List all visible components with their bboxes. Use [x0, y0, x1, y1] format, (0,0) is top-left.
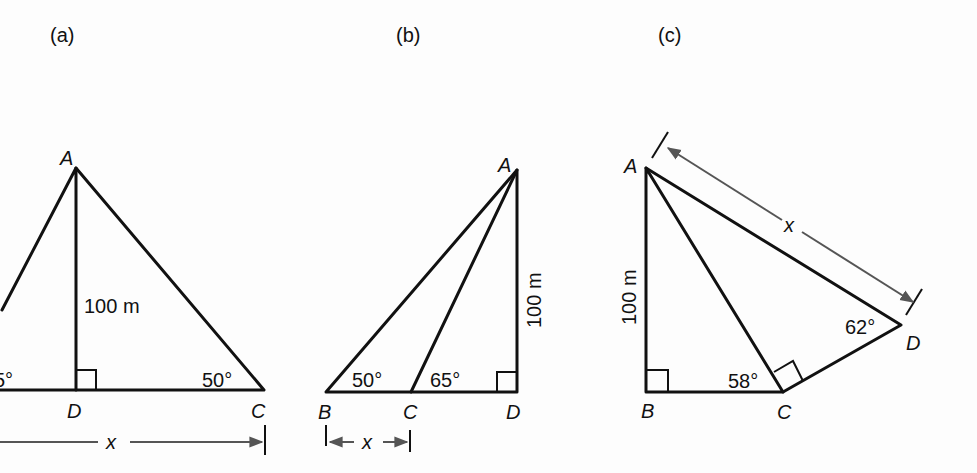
dimension-tick-d	[906, 289, 922, 315]
dimension-x: x	[361, 431, 373, 453]
vertex-c: C	[251, 400, 266, 422]
vertex-c: C	[403, 401, 418, 423]
vertex-c: C	[777, 401, 792, 423]
triangle-abc	[646, 168, 783, 392]
right-angle-marker	[76, 370, 96, 390]
caption-a: (a)	[50, 24, 74, 46]
triangle-acd	[646, 168, 901, 392]
caption-b: (b)	[396, 24, 420, 46]
vertex-b: B	[318, 401, 331, 423]
vertex-a: A	[623, 155, 637, 177]
vertex-a: A	[497, 154, 511, 176]
dimension-arrow-lower	[802, 232, 913, 302]
angle-d: 62°	[845, 316, 875, 338]
angle-c: 50°	[202, 369, 232, 391]
angle-c: 58°	[728, 370, 758, 392]
caption-c: (c)	[658, 24, 681, 46]
height-label: 100 m	[618, 269, 640, 325]
dimension-tick-a	[652, 132, 668, 158]
triangle-adc	[0, 168, 264, 390]
right-angle-marker	[497, 372, 517, 392]
right-angle-marker-c	[774, 361, 803, 381]
trig-diagrams: (a) A D C 100 m 5° 50° x (b) A B C D 100…	[0, 0, 977, 473]
angle-b: 50°	[352, 369, 382, 391]
vertex-a: A	[59, 147, 73, 169]
figure-c: (c) A B C D 100 m 58° 62° x	[618, 24, 922, 423]
vertex-d: D	[906, 332, 920, 354]
height-label: 100 m	[84, 295, 140, 317]
dimension-x: x	[105, 431, 117, 453]
vertex-d: D	[506, 401, 520, 423]
height-label: 100 m	[523, 272, 545, 328]
angle-partial: 5°	[0, 369, 13, 391]
figure-a: (a) A D C 100 m 5° 50° x	[0, 24, 266, 455]
dimension-arrow-upper	[668, 148, 782, 220]
left-side-and-altitude	[2, 168, 76, 390]
vertex-b: B	[641, 400, 654, 422]
right-angle-marker-b	[646, 370, 668, 392]
dimension-x: x	[783, 214, 795, 236]
line-ac	[411, 170, 517, 392]
vertex-d: D	[67, 400, 81, 422]
triangle-abd	[326, 170, 517, 392]
figure-b: (b) A B C D 100 m 50° 65° x	[318, 24, 545, 453]
angle-c: 65°	[430, 369, 460, 391]
